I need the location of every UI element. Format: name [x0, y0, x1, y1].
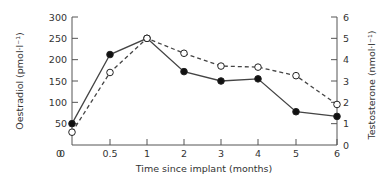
testosterone-marker [181, 50, 188, 57]
y-right-tick-label: 2 [343, 97, 349, 108]
series [69, 35, 341, 135]
x-axis-label: Time since implant (months) [135, 163, 272, 174]
testosterone-marker [334, 101, 341, 108]
oestradiol-marker [218, 78, 225, 85]
x-tick-label: 0.5 [102, 148, 117, 159]
testosterone-marker [293, 72, 300, 79]
testosterone-marker [69, 129, 76, 136]
oestradiol-marker [181, 68, 188, 75]
testosterone-marker [255, 64, 262, 71]
y-left-tick-label: 50 [55, 118, 67, 129]
x-tick-label: 1 [144, 148, 150, 159]
oestradiol-marker [69, 120, 76, 127]
x-tick-label: 3 [218, 148, 224, 159]
y-right-tick-label: 6 [343, 12, 349, 23]
y-left-tick-label: 150 [49, 76, 67, 87]
y-right-tick-label: 5 [343, 33, 349, 44]
y-left-tick-label: 300 [49, 12, 67, 23]
x-tick-label: 4 [255, 148, 261, 159]
dual-axis-line-chart: 050100150200250300012345600.5123456 Time… [0, 0, 387, 180]
y-axis-right-label: Testosterone (nmol·l⁻¹) [366, 30, 377, 140]
testosterone-marker [144, 35, 151, 42]
x-tick-label: 2 [181, 148, 187, 159]
y-left-tick-label: 250 [49, 33, 67, 44]
x-tick-label: 6 [334, 148, 340, 159]
oestradiol-marker [255, 76, 262, 83]
oestradiol-marker [107, 51, 114, 58]
y-axis-left-label: Oestradiol (pmol·l⁻¹) [14, 32, 25, 130]
y-right-tick-label: 1 [343, 118, 349, 129]
y-right-tick-label: 0 [343, 140, 349, 151]
y-left-tick-label: 100 [49, 97, 67, 108]
y-right-tick-label: 3 [343, 76, 349, 87]
testosterone-marker [218, 63, 225, 70]
axes: 050100150200250300012345600.5123456 [49, 12, 349, 160]
testosterone-marker [107, 69, 114, 76]
oestradiol-marker [293, 108, 300, 115]
oestradiol-marker [334, 113, 341, 120]
x-tick-label: 5 [293, 148, 299, 159]
x-tick-label: 0 [59, 148, 65, 159]
y-left-tick-label: 200 [49, 54, 67, 65]
y-right-tick-label: 4 [343, 54, 349, 65]
